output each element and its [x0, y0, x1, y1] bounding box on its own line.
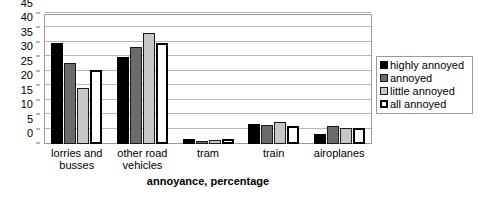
legend-label: little annoyed	[390, 86, 455, 97]
y-tick-mark	[36, 70, 40, 71]
y-tick-label: 5	[27, 113, 33, 124]
y-tick-label: 20	[21, 70, 33, 81]
gridline	[45, 55, 371, 56]
legend-item: highly annoyed	[380, 59, 469, 71]
gridline	[45, 113, 371, 114]
legend-label: all annoyed	[390, 99, 446, 110]
y-tick-label: 15	[21, 84, 33, 95]
y-axis: 051015202530354045	[0, 14, 40, 144]
y-tick-label: 45	[21, 0, 33, 9]
y-tick-mark	[36, 27, 40, 28]
x-tick-label: tram	[175, 147, 241, 159]
y-tick-mark	[36, 56, 40, 57]
y-tick-label: 0	[27, 128, 33, 139]
gridline	[45, 26, 371, 27]
plot-area	[44, 14, 372, 144]
gridline	[45, 84, 371, 85]
bar-chart: 051015202530354045 lorries and bussesoth…	[0, 0, 483, 197]
y-tick-label: 10	[21, 99, 33, 110]
y-tick-mark	[36, 114, 40, 115]
legend-item: all annoyed	[380, 98, 469, 110]
gridline	[45, 128, 371, 129]
y-tick-mark	[36, 143, 40, 144]
legend-swatch-icon	[380, 61, 388, 69]
y-tick-mark	[36, 99, 40, 100]
x-tick-label: lorries and busses	[44, 147, 110, 171]
x-tick-label: other road vehicles	[110, 147, 176, 171]
x-tick-label: airoplanes	[306, 147, 372, 159]
y-tick-mark	[36, 85, 40, 86]
x-axis-category-labels: lorries and bussesother road vehiclestra…	[44, 147, 372, 175]
legend: highly annoyedannoyedlittle annoyedall a…	[376, 56, 473, 114]
y-tick-label: 25	[21, 55, 33, 66]
gridline	[45, 12, 371, 13]
y-tick-label: 40	[21, 12, 33, 23]
y-tick-mark	[36, 13, 40, 14]
x-axis-title: annoyance, percentage	[44, 175, 372, 187]
legend-swatch-icon	[380, 74, 388, 82]
gridline	[45, 99, 371, 100]
x-tick-label: train	[241, 147, 307, 159]
legend-label: highly annoyed	[390, 60, 464, 71]
legend-swatch-icon	[380, 87, 388, 95]
legend-swatch-icon	[380, 100, 388, 108]
y-tick-label: 30	[21, 41, 33, 52]
legend-item: little annoyed	[380, 85, 469, 97]
y-tick-mark	[36, 128, 40, 129]
legend-label: annoyed	[390, 73, 432, 84]
legend-item: annoyed	[380, 72, 469, 84]
gridline	[45, 70, 371, 71]
y-tick-label: 35	[21, 26, 33, 37]
y-tick-mark	[36, 41, 40, 42]
gridline	[45, 41, 371, 42]
